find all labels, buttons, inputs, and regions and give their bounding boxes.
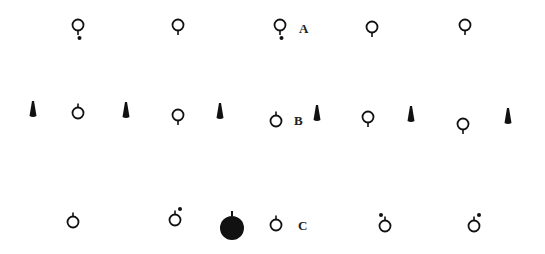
cone-glyph-icon <box>297 94 337 134</box>
ring-glyph-icon <box>158 95 198 135</box>
ring-glyph-icon <box>260 5 300 45</box>
ring-glyph-icon <box>158 5 198 45</box>
ring-glyph-icon <box>443 104 483 144</box>
ring-glyph-icon <box>53 202 93 242</box>
ring-glyph-icon <box>454 206 494 246</box>
cone-glyph-icon <box>488 97 528 137</box>
ring-glyph-icon <box>58 93 98 133</box>
cone-glyph-icon <box>391 95 431 135</box>
row-label-c: C <box>298 218 307 234</box>
cone-glyph-icon <box>200 92 240 132</box>
ring-glyph-icon <box>256 101 296 141</box>
ring-glyph-icon <box>58 5 98 45</box>
row-label-a: A <box>299 21 308 37</box>
solid-disc-icon <box>212 207 252 247</box>
ring-glyph-icon <box>352 7 392 47</box>
ring-glyph-icon <box>155 200 195 240</box>
cone-glyph-icon <box>106 91 146 131</box>
ring-glyph-icon <box>445 5 485 45</box>
ring-glyph-icon <box>348 97 388 137</box>
cone-glyph-icon <box>13 90 53 130</box>
ring-glyph-icon <box>365 206 405 246</box>
ring-glyph-icon <box>256 205 296 245</box>
